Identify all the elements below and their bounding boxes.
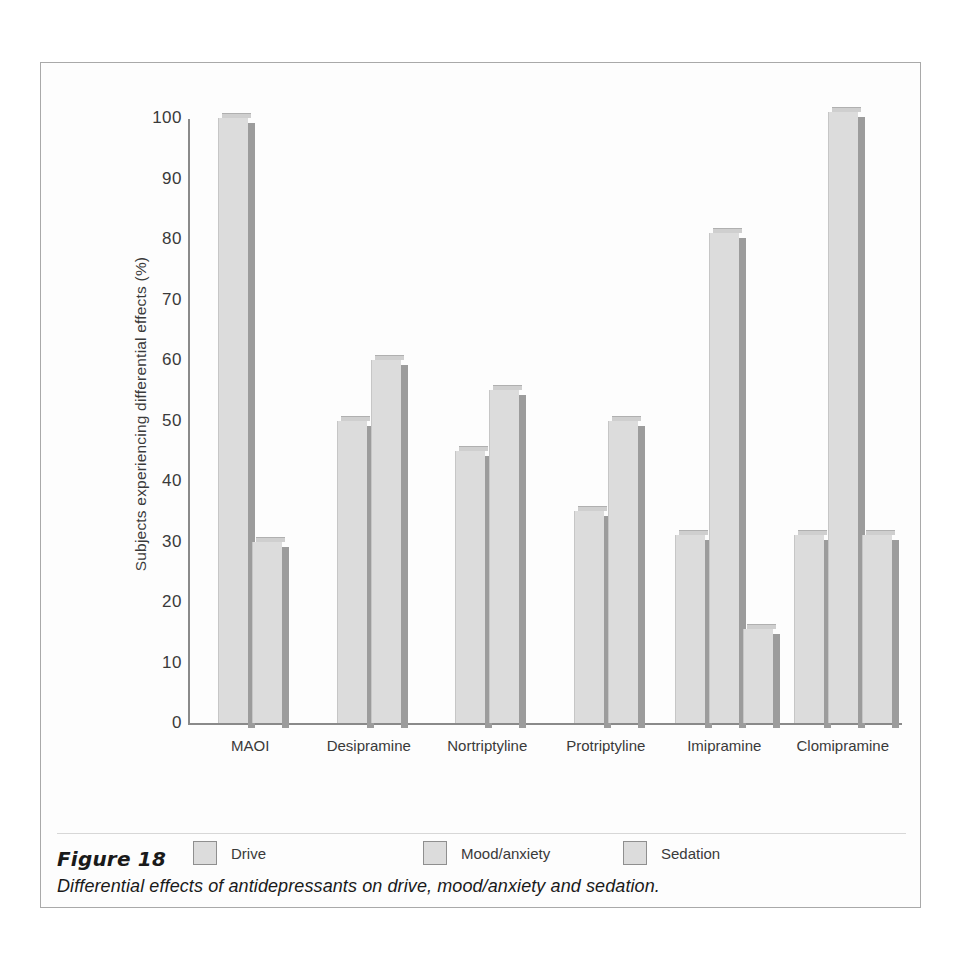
y-axis-tick-label: 20 [104,592,182,612]
bar-group: Clomipramine [784,103,903,725]
bar-side-face [519,395,526,728]
y-axis-tick-label: 70 [104,290,182,310]
bar [455,451,485,723]
y-axis-tick-label: 80 [104,229,182,249]
bar-top-face [341,416,370,421]
bar-group: Nortriptyline [428,103,547,725]
bar-top-face [493,385,522,390]
x-axis-category-label: Protriptyline [566,737,645,754]
bar-group: MAOI [191,103,310,725]
x-axis-category-label: Nortriptyline [447,737,527,754]
bar-top-face [832,107,861,112]
bar-top-face [612,416,641,421]
bar [862,535,892,723]
bar-top-face [222,113,251,118]
bar [794,535,824,723]
bar-top-face [256,537,285,542]
figure-caption: Figure 18 Differential effects of antide… [57,847,887,897]
y-axis-tick-label: 40 [104,471,182,491]
chart-plot-area: Subjects experiencing differential effec… [97,103,905,773]
y-axis-line [188,119,190,724]
bar [574,511,604,723]
y-axis-tick-label: 100 [104,108,182,128]
bar [675,535,705,723]
bar-side-face [638,426,645,729]
bar [252,542,282,724]
y-axis-tick-label: 30 [104,532,182,552]
bars-layer: MAOIDesipramineNortriptylineProtriptylin… [191,103,902,725]
bar-group: Imipramine [665,103,784,725]
caption-divider [57,833,906,834]
bar-top-face [459,446,488,451]
bar-side-face [401,365,408,728]
x-axis-category-label: Desipramine [327,737,411,754]
x-axis-category-label: Imipramine [687,737,761,754]
bar [828,112,858,723]
y-axis-tick-label: 50 [104,411,182,431]
bar [337,421,367,724]
y-axis-tick-label: 10 [104,653,182,673]
figure-frame: Subjects experiencing differential effec… [40,62,921,908]
caption-text: Differential effects of antidepressants … [57,876,887,897]
bar [743,629,773,723]
bar-top-face [375,355,404,360]
bar-top-face [578,506,607,511]
caption-title: Figure 18 [57,847,887,871]
bar [371,360,401,723]
y-axis-tick-label: 60 [104,350,182,370]
bar-top-face [798,530,827,535]
y-axis-tick-label: 90 [104,169,182,189]
bar-top-face [866,530,895,535]
bar-top-face [713,228,742,233]
x-axis-category-label: Clomipramine [796,737,889,754]
x-axis-category-label: MAOI [231,737,269,754]
bar-group: Desipramine [310,103,429,725]
bar-side-face [282,547,289,729]
bar-group: Protriptyline [547,103,666,725]
bar [218,118,248,723]
figure-page: Subjects experiencing differential effec… [0,0,965,976]
bar-side-face [892,540,899,728]
bar-top-face [747,624,776,629]
bar [608,421,638,724]
y-axis-tick-label: 0 [104,713,182,733]
bar-top-face [679,530,708,535]
bar [489,390,519,723]
bar [709,233,739,723]
bar-side-face [773,634,780,728]
y-axis-tick-labels: 0102030405060708090100 [97,103,182,743]
